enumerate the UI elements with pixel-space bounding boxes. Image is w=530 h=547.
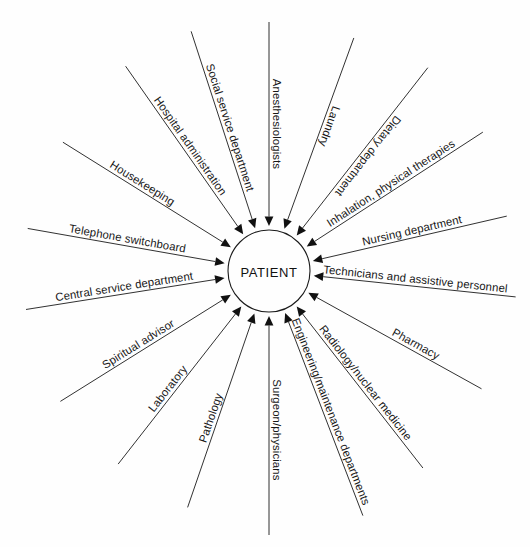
spoke-label: Laundry bbox=[317, 105, 343, 149]
spoke-central-service-department: Central service department bbox=[26, 269, 225, 309]
spoke-label: Hospital administration bbox=[152, 94, 229, 197]
hub-layer: PATIENT bbox=[228, 230, 310, 312]
spoke-laboratory: Laboratory bbox=[118, 306, 241, 464]
arrow-head-icon bbox=[308, 293, 318, 301]
arrow-head-icon bbox=[307, 238, 317, 247]
spoke-line bbox=[322, 216, 507, 259]
spoke-label: Technicians and assistive personnel bbox=[323, 263, 508, 294]
arrow-head-icon bbox=[265, 217, 274, 227]
arrow-head-icon bbox=[247, 314, 255, 324]
patient-hub-label: PATIENT bbox=[240, 265, 297, 280]
arrow-head-icon bbox=[220, 295, 230, 304]
spoke-label: Anesthesiologists bbox=[271, 79, 283, 170]
arrow-head-icon bbox=[265, 316, 274, 326]
spoke-surgeon-physicians: Surgeon/physicians bbox=[265, 316, 283, 535]
diagram-canvas: AnesthesiologistsLaundryDietary departme… bbox=[0, 0, 530, 547]
spoke-label: Laboratory bbox=[146, 363, 190, 414]
radial-diagram: AnesthesiologistsLaundryDietary departme… bbox=[0, 0, 530, 547]
arrow-head-icon bbox=[220, 238, 230, 247]
spoke-spiritual-advisor: Spiritual advisor bbox=[60, 295, 230, 402]
spoke-label: Spiritual advisor bbox=[100, 317, 177, 371]
spoke-anesthesiologists: Anesthesiologists bbox=[265, 22, 283, 226]
spoke-line bbox=[60, 300, 222, 401]
spoke-label: Pathology bbox=[196, 391, 224, 444]
spoke-label: Pharmacy bbox=[390, 326, 442, 362]
spoke-line bbox=[118, 314, 235, 464]
spoke-social-service-department: Social service department bbox=[191, 31, 257, 228]
arrow-head-icon bbox=[214, 275, 224, 284]
arrow-head-icon bbox=[248, 218, 256, 228]
arrow-head-icon bbox=[297, 225, 306, 235]
arrow-head-icon bbox=[234, 224, 243, 234]
spoke-laundry: Laundry bbox=[284, 38, 354, 229]
arrow-head-icon bbox=[313, 254, 323, 263]
spoke-line bbox=[188, 323, 252, 508]
spoke-pathology: Pathology bbox=[188, 314, 256, 508]
arrow-head-icon bbox=[232, 306, 241, 316]
spoke-label: Nursing department bbox=[361, 213, 464, 248]
arrow-head-icon bbox=[297, 306, 306, 316]
arrow-head-icon bbox=[284, 218, 292, 228]
spoke-label: Housekeeping bbox=[108, 158, 177, 207]
spoke-telephone-switchboard: Telephone switchboard bbox=[28, 222, 225, 266]
spoke-line bbox=[289, 322, 363, 516]
spoke-technicians-and-assistive-personnel: Technicians and assistive personnel bbox=[314, 263, 516, 297]
spoke-label: Surgeon/physicians bbox=[271, 379, 283, 480]
arrow-head-icon bbox=[215, 257, 225, 266]
